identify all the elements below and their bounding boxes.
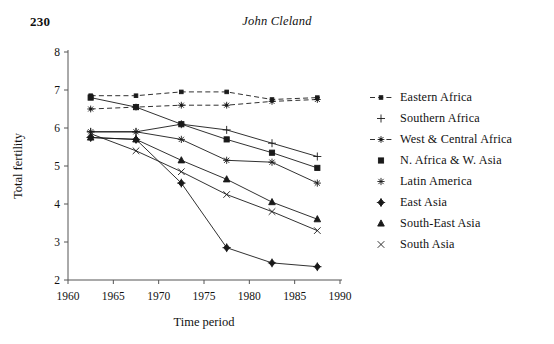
data-point-marker-filled-diamond xyxy=(313,262,321,271)
data-point-marker-open-asterisk xyxy=(377,178,384,185)
data-point-marker-filled-square xyxy=(315,165,320,170)
series-path xyxy=(91,98,318,168)
data-point-marker-small-square-dash xyxy=(379,96,383,100)
y-tick-label: 3 xyxy=(54,236,60,248)
data-point-marker-filled-square xyxy=(224,137,229,142)
y-tick-label: 6 xyxy=(54,122,60,134)
chart-legend: Eastern AfricaSouthern AfricaWest & Cent… xyxy=(366,87,554,255)
data-point-marker-asterisk xyxy=(378,136,385,143)
data-point-marker-open-asterisk xyxy=(268,159,275,166)
series-path xyxy=(91,100,318,110)
x-tick-label: 1975 xyxy=(193,290,216,302)
legend-label: East Asia xyxy=(400,195,447,210)
data-point-marker-small-square-dash xyxy=(180,90,184,94)
legend-marker-filled-square-icon xyxy=(366,150,400,171)
legend-marker-open-asterisk-icon xyxy=(366,171,400,192)
legend-item: East Asia xyxy=(366,192,554,213)
y-tick-label: 7 xyxy=(54,84,60,96)
data-point-marker-filled-square xyxy=(133,105,138,110)
x-axis-title: Time period xyxy=(174,315,236,329)
legend-marker-filled-diamond-icon xyxy=(366,192,400,213)
data-point-marker-filled-triangle xyxy=(378,220,385,226)
x-tick-label: 1970 xyxy=(147,290,170,302)
data-point-marker-cross-star xyxy=(223,191,230,198)
x-tick-label: 1990 xyxy=(329,290,352,302)
data-point-marker-filled-square xyxy=(88,95,93,100)
line-chart: 23456781960196519701975198019851990Time … xyxy=(0,40,360,344)
data-point-marker-filled-triangle xyxy=(269,199,276,205)
legend-item: Latin America xyxy=(366,171,554,192)
data-point-marker-open-asterisk xyxy=(178,136,185,143)
legend-item: N. Africa & W. Asia xyxy=(366,150,554,171)
running-title: John Cleland xyxy=(0,14,554,29)
y-tick-label: 8 xyxy=(54,46,60,58)
data-point-marker-filled-square xyxy=(269,150,274,155)
series-path xyxy=(91,132,318,183)
series-southern-africa xyxy=(87,120,322,160)
y-axis-title: Total fertility xyxy=(11,132,25,199)
legend-label: Southern Africa xyxy=(400,111,480,126)
data-point-marker-filled-triangle xyxy=(178,157,185,163)
x-tick-label: 1980 xyxy=(238,290,261,302)
data-point-marker-open-asterisk xyxy=(314,180,321,187)
data-point-marker-asterisk xyxy=(314,96,321,103)
data-point-marker-small-square-dash xyxy=(225,90,229,94)
data-point-marker-asterisk xyxy=(87,106,94,113)
legend-marker-small-square-dash-icon xyxy=(366,87,400,108)
y-tick-label: 5 xyxy=(54,160,60,172)
data-point-marker-cross-star xyxy=(314,227,321,234)
data-point-marker-cross-star xyxy=(378,241,385,248)
legend-marker-asterisk-icon xyxy=(366,129,400,150)
data-point-marker-plus xyxy=(223,126,231,134)
page-header: 230 John Cleland xyxy=(0,0,554,40)
data-point-marker-open-asterisk xyxy=(223,157,230,164)
chart-axes xyxy=(68,50,342,280)
legend-item: West & Central Africa xyxy=(366,129,554,150)
series-east-asia xyxy=(86,133,321,271)
y-tick-label: 4 xyxy=(54,198,60,210)
series-path xyxy=(91,92,318,100)
series-south-asia xyxy=(87,130,320,234)
series-eastern-africa xyxy=(89,90,319,101)
data-point-marker-filled-square xyxy=(378,158,383,163)
legend-marker-plus-icon xyxy=(366,108,400,129)
data-point-marker-filled-diamond xyxy=(222,243,230,252)
plot-area: 23456781960196519701975198019851990Time … xyxy=(0,40,360,344)
data-point-marker-filled-square xyxy=(179,122,184,127)
data-point-marker-cross-star xyxy=(133,148,140,155)
data-point-marker-plus xyxy=(268,139,276,147)
legend-label: N. Africa & W. Asia xyxy=(400,153,502,168)
legend-label: Latin America xyxy=(400,174,472,189)
legend-label: West & Central Africa xyxy=(400,132,512,147)
legend-label: South Asia xyxy=(400,237,455,252)
data-point-marker-cross-star xyxy=(269,208,276,215)
data-point-marker-small-square-dash xyxy=(134,94,138,98)
series-path xyxy=(91,124,318,156)
data-point-marker-asterisk xyxy=(269,98,276,105)
legend-label: South-East Asia xyxy=(400,216,480,231)
x-tick-label: 1960 xyxy=(57,290,80,302)
figure: 23456781960196519701975198019851990Time … xyxy=(0,40,554,344)
data-point-marker-asterisk xyxy=(178,102,185,109)
data-point-marker-filled-diamond xyxy=(268,259,276,268)
legend-item: South-East Asia xyxy=(366,213,554,234)
data-point-marker-cross-star xyxy=(178,168,185,175)
series-n-africa-w-asia xyxy=(88,95,320,171)
data-point-marker-asterisk xyxy=(223,102,230,109)
x-tick-label: 1965 xyxy=(102,290,125,302)
data-point-marker-plus xyxy=(377,115,385,123)
y-tick-label: 2 xyxy=(54,274,60,286)
data-point-marker-filled-diamond xyxy=(377,198,385,207)
data-point-marker-open-asterisk xyxy=(132,128,139,135)
legend-item: South Asia xyxy=(366,234,554,255)
legend-marker-cross-star-icon xyxy=(366,234,400,255)
legend-item: Eastern Africa xyxy=(366,87,554,108)
data-point-marker-plus xyxy=(313,153,321,161)
legend-marker-filled-triangle-icon xyxy=(366,213,400,234)
x-tick-label: 1985 xyxy=(283,290,306,302)
legend-item: Southern Africa xyxy=(366,108,554,129)
legend-label: Eastern Africa xyxy=(400,90,472,105)
